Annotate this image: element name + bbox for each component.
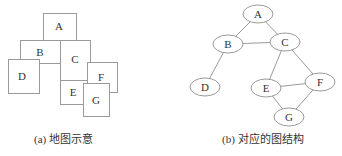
graph-node-f: F [305, 73, 335, 91]
map-region-label: C [71, 53, 78, 65]
graph-node-label: D [201, 81, 209, 93]
graph-nodes: ABCDEFG [190, 5, 335, 126]
graph-node-label: E [263, 82, 270, 94]
map-region-label: F [98, 71, 104, 83]
graph-node-a: A [243, 5, 273, 23]
graph-node-label: G [285, 111, 293, 123]
graph-node-label: B [224, 38, 231, 50]
map-region-label: A [55, 20, 63, 32]
graph-caption: (b) 对应的图结构 [222, 130, 304, 146]
graph-node-b: B [213, 35, 243, 53]
graph-edges [205, 14, 320, 117]
map-region-label: D [18, 70, 26, 82]
map-region-label: E [70, 86, 77, 98]
map-region-c: C [61, 41, 91, 81]
map-diagram: ABCDEFG [9, 14, 118, 117]
map-region-label: B [36, 46, 43, 58]
map-region-label: G [92, 94, 100, 106]
map-region-a: A [44, 14, 77, 41]
graph-node-label: C [281, 36, 288, 48]
graph-node-e: E [251, 79, 281, 97]
graph-node-label: A [254, 8, 262, 20]
graph-node-label: F [317, 76, 323, 88]
map-region-d: D [9, 60, 40, 94]
graph-node-g: G [274, 108, 304, 126]
map-caption: (a) 地图示意 [34, 130, 93, 146]
graph-node-d: D [190, 78, 220, 96]
graph-node-c: C [270, 33, 300, 51]
map-region-g: G [84, 84, 110, 117]
